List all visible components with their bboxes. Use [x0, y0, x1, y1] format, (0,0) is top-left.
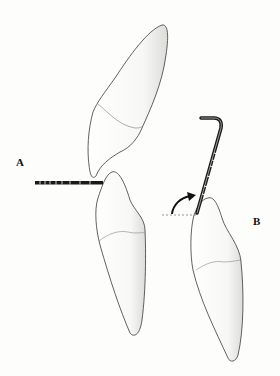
label-b: B [253, 215, 260, 227]
probe-a [35, 181, 103, 185]
label-a: A [16, 156, 24, 168]
lower-tooth-b [191, 198, 243, 361]
rotation-arrow-icon [172, 192, 196, 214]
lower-tooth-a [96, 172, 146, 335]
dental-diagram [0, 0, 280, 376]
upper-tooth [88, 25, 168, 177]
